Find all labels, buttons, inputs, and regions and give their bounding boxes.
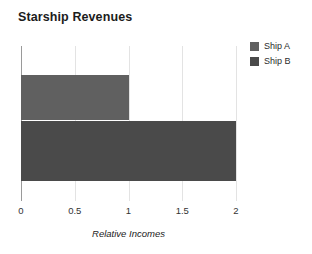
x-tick-label: 1.5 bbox=[176, 205, 189, 216]
legend-item-label: Ship B bbox=[264, 56, 291, 67]
bar-chart: Starship Revenues Ship AShip B 00.511.52… bbox=[0, 0, 312, 254]
chart-legend: Ship AShip B bbox=[250, 41, 291, 67]
bar-ship-b[interactable] bbox=[21, 121, 236, 181]
x-tick-label: 0.5 bbox=[68, 205, 81, 216]
bar-ship-a[interactable] bbox=[21, 75, 129, 120]
x-axis-title: Relative Incomes bbox=[21, 228, 236, 239]
x-tick-label: 1 bbox=[126, 205, 131, 216]
gridline bbox=[236, 46, 237, 201]
legend-item-label: Ship A bbox=[264, 41, 290, 52]
legend-swatch-icon bbox=[250, 42, 259, 51]
x-tick-label: 0 bbox=[18, 205, 23, 216]
bars-layer bbox=[21, 46, 236, 201]
legend-item[interactable]: Ship A bbox=[250, 41, 291, 52]
legend-item[interactable]: Ship B bbox=[250, 56, 291, 67]
chart-title: Starship Revenues bbox=[18, 10, 132, 24]
plot-area bbox=[21, 46, 236, 201]
x-tick-label: 2 bbox=[233, 205, 238, 216]
x-axis-tick-labels: 00.511.52 bbox=[21, 205, 236, 219]
legend-swatch-icon bbox=[250, 57, 259, 66]
